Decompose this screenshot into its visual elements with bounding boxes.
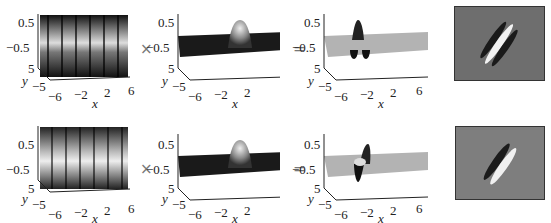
y-tick: −5 xyxy=(32,198,46,211)
sinusoid-surface-plot: 0.5 −0.5 5 y −5 −6 −2 2 6 x xyxy=(0,112,140,223)
x-tick: 2 xyxy=(390,86,397,99)
gabor-surface-graphic xyxy=(278,0,428,112)
z-tick: 0.5 xyxy=(304,16,320,29)
z-tick: 0.5 xyxy=(158,16,174,29)
x-tick: 2 xyxy=(390,204,397,217)
x-tick: 2 xyxy=(244,204,251,217)
y-tick: −5 xyxy=(32,80,46,93)
y-axis-label: y xyxy=(162,74,168,87)
gabor-kernel-graphic xyxy=(455,7,544,80)
y-tick: −5 xyxy=(318,198,332,211)
y-tick: 5 xyxy=(168,62,175,75)
y-axis-label: y xyxy=(22,192,28,205)
x-tick: −6 xyxy=(48,208,62,221)
y-tick: 5 xyxy=(28,182,35,195)
gabor-surface-plot: 0.5 −0.5 5 y −5 −6 −2 2 6 x xyxy=(278,0,418,112)
y-axis-label: y xyxy=(308,192,314,205)
x-axis-label: x xyxy=(92,97,98,110)
x-axis-label: x xyxy=(232,97,238,110)
x-tick: −6 xyxy=(188,90,202,103)
z-tick: 0.5 xyxy=(18,138,34,151)
x-tick: −2 xyxy=(74,206,88,219)
x-tick: −6 xyxy=(48,90,62,103)
z-tick: −0.5 xyxy=(146,163,170,176)
x-axis-label: x xyxy=(378,212,384,223)
x-tick: 2 xyxy=(104,86,111,99)
z-tick: −0.5 xyxy=(292,163,316,176)
x-tick: −2 xyxy=(214,206,228,219)
z-tick: 0.5 xyxy=(18,16,34,29)
gabor-kernel-image xyxy=(454,6,545,81)
x-axis-label: x xyxy=(92,212,98,223)
y-tick: −5 xyxy=(172,80,186,93)
x-tick: 6 xyxy=(128,202,135,215)
y-tick: 5 xyxy=(168,182,175,195)
y-tick: 5 xyxy=(314,182,321,195)
y-axis-label: y xyxy=(162,192,168,205)
z-tick: −0.5 xyxy=(146,41,170,54)
x-axis-label: x xyxy=(232,212,238,223)
x-tick: 6 xyxy=(416,84,423,97)
y-tick: 5 xyxy=(28,62,35,75)
z-tick: −0.5 xyxy=(6,163,30,176)
row-even-phase: 0.5 −0.5 5 y −5 −6 −2 2 6 x × 0.5 −0.5 5… xyxy=(0,0,551,112)
sinusoid-surface-plot: 0.5 −0.5 5 y −5 −6 −2 2 6 x xyxy=(0,0,140,112)
x-tick: 2 xyxy=(104,204,111,217)
z-tick: 0.5 xyxy=(304,138,320,151)
y-tick: 5 xyxy=(314,62,321,75)
x-tick: 2 xyxy=(244,86,251,99)
z-tick: −0.5 xyxy=(292,41,316,54)
gaussian-surface-plot: 0.5 −0.5 5 y −5 −6 −2 2 x xyxy=(140,112,280,223)
x-tick: −2 xyxy=(74,88,88,101)
x-axis-label: x xyxy=(378,97,384,110)
x-tick: −6 xyxy=(334,90,348,103)
x-tick: −6 xyxy=(334,208,348,221)
row-odd-phase: 0.5 −0.5 5 y −5 −6 −2 2 6 x × 0.5 −0.5 5… xyxy=(0,112,551,223)
y-axis-label: y xyxy=(22,74,28,87)
x-tick: −2 xyxy=(360,206,374,219)
gabor-kernel-graphic xyxy=(456,127,544,199)
x-tick: −2 xyxy=(214,88,228,101)
gaussian-surface-plot: 0.5 −0.5 5 y −5 −6 −2 2 x xyxy=(140,0,280,112)
z-tick: −0.5 xyxy=(6,41,30,54)
z-tick: 0.5 xyxy=(158,138,174,151)
y-axis-label: y xyxy=(308,74,314,87)
gabor-kernel-image xyxy=(455,126,545,200)
x-tick: −2 xyxy=(360,88,374,101)
x-tick: −6 xyxy=(188,208,202,221)
y-tick: −5 xyxy=(172,198,186,211)
x-tick: 6 xyxy=(128,84,135,97)
gabor-surface-plot: 0.5 −0.5 5 y −5 −6 −2 2 6 x xyxy=(278,112,418,223)
x-tick: 6 xyxy=(416,202,423,215)
y-tick: −5 xyxy=(318,80,332,93)
